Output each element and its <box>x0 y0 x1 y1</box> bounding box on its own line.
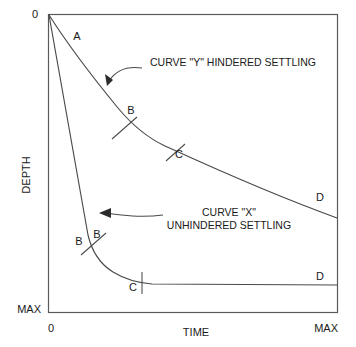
point-label-c-upper: C <box>175 148 183 160</box>
point-label-d-lower: D <box>316 270 324 282</box>
point-label-b-lower-left: B <box>75 235 82 247</box>
x-axis-left-tick: 0 <box>48 322 54 334</box>
point-label-d-upper: D <box>316 191 324 203</box>
y-axis-bottom-tick: MAX <box>17 303 42 315</box>
curve-x-annotation-line1: CURVE "X" <box>202 206 256 218</box>
curve-y-path <box>49 15 337 218</box>
point-label-a: A <box>73 30 81 42</box>
curve-x-annotation-line2: UNHINDERED SETTLING <box>167 219 291 231</box>
y-axis-top-tick: 0 <box>32 8 38 20</box>
curve-y-leader <box>105 68 142 86</box>
y-axis-label: DEPTH <box>20 156 32 193</box>
curve-y-annotation: CURVE "Y" HINDERED SETTLING <box>150 56 316 68</box>
x-axis-right-tick: MAX <box>314 322 339 334</box>
x-axis-label: TIME <box>183 326 209 338</box>
point-label-b-upper: B <box>127 104 134 116</box>
settling-curves-figure: 0 MAX 0 MAX DEPTH TIME CURVE "Y" HINDERE… <box>0 0 356 347</box>
point-label-c-lower: C <box>129 281 137 293</box>
tick-mark-b-upper <box>112 117 137 139</box>
curve-x-leader <box>99 208 163 218</box>
point-label-b-lower-right: B <box>93 228 100 240</box>
